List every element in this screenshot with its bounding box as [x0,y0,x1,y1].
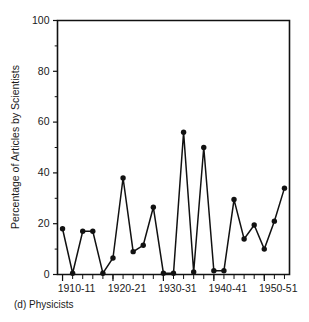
data-point [211,268,216,273]
data-point [272,218,277,223]
data-point [80,229,85,234]
svg-text:Percentage of Articles by Scie: Percentage of Articles by Scientists [9,65,21,229]
data-point [282,185,287,190]
data-point [241,236,246,241]
data-point [141,243,146,248]
data-point [110,255,115,260]
x-tick-label: 1940-41 [209,282,248,294]
y-tick-label: 40 [38,166,50,178]
y-axis-title: Percentage of Articles by Scientists [9,65,21,229]
data-series-markers [60,130,287,276]
line-chart: 020406080100 1910-111920-211930-311940-4… [0,0,309,322]
y-tick-label: 80 [38,65,50,77]
figure-panel: 020406080100 1910-111920-211930-311940-4… [0,0,309,322]
data-point [60,226,65,231]
y-tick-label: 20 [38,217,50,229]
data-point [161,271,166,276]
data-point [151,204,156,209]
x-tick-label: 1910-11 [58,282,96,294]
data-point [90,229,95,234]
data-point [130,249,135,254]
x-tick-label: 1950-51 [259,282,298,294]
data-series-line [63,132,285,273]
data-point [120,175,125,180]
y-tick-label: 60 [38,115,50,127]
x-axis-tick-labels: 1910-111920-211930-311940-411950-51 [58,282,298,294]
data-point [262,246,267,251]
svg-text:(d) Physicists: (d) Physicists [14,299,73,310]
data-point [100,271,105,276]
y-axis-tick-labels: 020406080100 [32,14,50,280]
data-point [70,271,75,276]
data-point [201,145,206,150]
x-tick-label: 1920-21 [108,282,147,294]
data-point [181,130,186,135]
x-tick-label: 1930-31 [158,282,197,294]
data-point [231,197,236,202]
figure-caption: (d) Physicists [14,299,73,310]
y-tick-label: 0 [44,268,50,280]
data-point [191,269,196,274]
data-point [252,222,257,227]
data-point [221,268,226,273]
plot-frame [58,21,290,275]
y-tick-label: 100 [32,14,50,26]
data-point [171,271,176,276]
